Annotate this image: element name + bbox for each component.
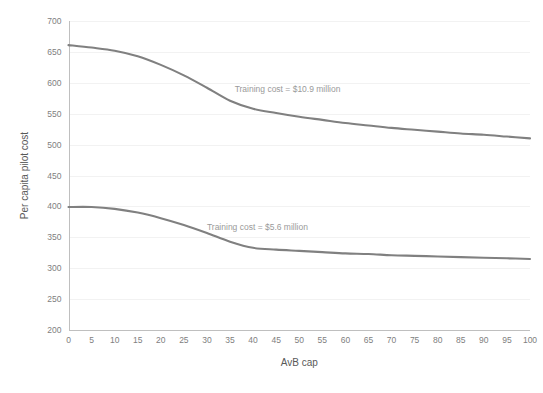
x-tick-label: 50 bbox=[295, 335, 305, 345]
x-tick-label: 40 bbox=[248, 335, 258, 345]
x-tick-label: 35 bbox=[225, 335, 235, 345]
y-tick-label: 350 bbox=[47, 232, 61, 242]
y-tick-label: 450 bbox=[47, 171, 61, 181]
y-tick-label: 650 bbox=[47, 47, 61, 57]
y-axis-tick-labels: 200250300350400450500550600650700 bbox=[47, 16, 61, 335]
x-tick-label: 90 bbox=[479, 335, 489, 345]
chart-container: 200250300350400450500550600650700 051015… bbox=[0, 0, 543, 393]
x-tick-label: 65 bbox=[364, 335, 374, 345]
x-tick-label: 55 bbox=[318, 335, 328, 345]
y-tick-label: 200 bbox=[47, 325, 61, 335]
y-tick-label: 700 bbox=[47, 16, 61, 26]
series-annotations: Training cost = $10.9 millionTraining co… bbox=[207, 84, 341, 232]
y-tick-label: 400 bbox=[47, 201, 61, 211]
x-tick-label: 100 bbox=[523, 335, 537, 345]
y-tick-label: 250 bbox=[47, 294, 61, 304]
y-tick-label: 550 bbox=[47, 109, 61, 119]
annotation-label-1: Training cost = $5.6 million bbox=[207, 222, 308, 232]
axis-lines bbox=[69, 21, 531, 331]
x-axis-tick-labels: 0510152025303540455055606570758085909510… bbox=[66, 335, 537, 345]
x-tick-label: 5 bbox=[89, 335, 94, 345]
y-axis-title: Per capita pilot cost bbox=[19, 132, 30, 219]
x-tick-label: 70 bbox=[387, 335, 397, 345]
x-tick-label: 20 bbox=[156, 335, 166, 345]
series-line-1 bbox=[69, 207, 531, 259]
x-tick-label: 75 bbox=[410, 335, 420, 345]
line-chart: 200250300350400450500550600650700 051015… bbox=[0, 0, 543, 393]
x-tick-label: 30 bbox=[202, 335, 212, 345]
x-tick-label: 95 bbox=[502, 335, 512, 345]
gridlines bbox=[69, 22, 531, 331]
x-tick-label: 25 bbox=[179, 335, 189, 345]
x-tick-label: 80 bbox=[433, 335, 443, 345]
annotation-label-0: Training cost = $10.9 million bbox=[235, 84, 341, 94]
x-tick-label: 0 bbox=[66, 335, 71, 345]
x-axis-title: AvB cap bbox=[281, 357, 318, 368]
x-tick-label: 10 bbox=[110, 335, 120, 345]
x-tick-label: 45 bbox=[271, 335, 281, 345]
y-tick-label: 300 bbox=[47, 263, 61, 273]
x-tick-label: 85 bbox=[456, 335, 466, 345]
x-tick-label: 15 bbox=[133, 335, 143, 345]
y-tick-label: 600 bbox=[47, 78, 61, 88]
x-tick-label: 60 bbox=[341, 335, 351, 345]
y-tick-label: 500 bbox=[47, 140, 61, 150]
